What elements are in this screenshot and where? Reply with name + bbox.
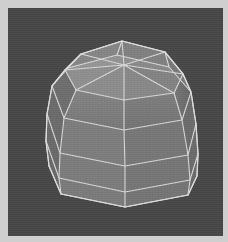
perspective-viewport[interactable] [8, 8, 223, 236]
app-window [0, 0, 228, 242]
mesh-canvas[interactable] [8, 8, 223, 236]
